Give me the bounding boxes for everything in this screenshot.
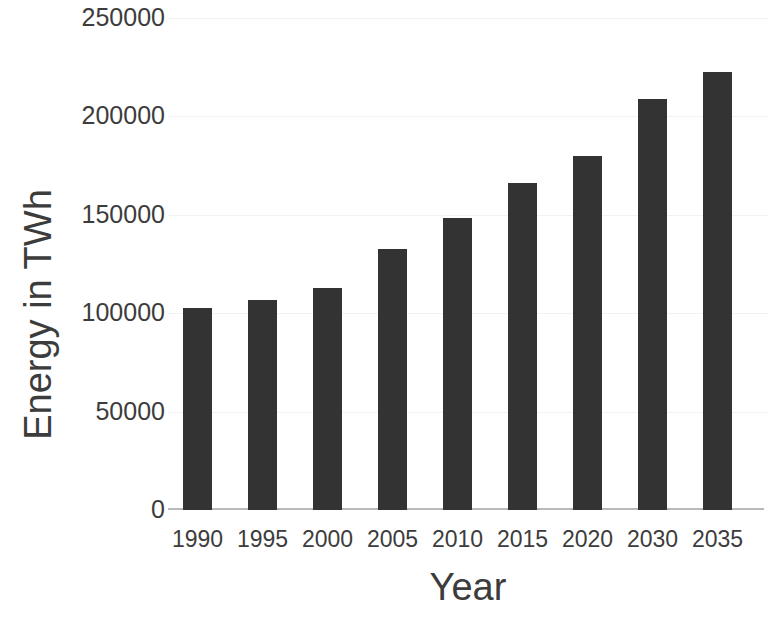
x-axis-tick-label: 2035 [686, 528, 750, 551]
y-axis-tick-label: 150000 [33, 202, 165, 227]
bar [183, 308, 212, 510]
bar [573, 156, 602, 510]
x-axis-tick-label: 2030 [621, 528, 685, 551]
y-axis-tick-label: 0 [33, 497, 165, 522]
bar [313, 288, 342, 510]
bar [248, 300, 277, 510]
bar-series [168, 8, 768, 510]
bar [378, 249, 407, 510]
y-axis-tick-label: 200000 [33, 103, 165, 128]
bar [703, 72, 732, 510]
y-axis-tick-label: 250000 [33, 5, 165, 30]
x-axis-tick-labels: 199019952000200520102015202020302035 [168, 528, 768, 562]
x-axis-tick-label: 1995 [231, 528, 295, 551]
bar [638, 99, 667, 510]
x-axis-tick-label: 2010 [426, 528, 490, 551]
x-axis-tick-label: 2000 [296, 528, 360, 551]
y-axis-tick-label: 100000 [33, 300, 165, 325]
plot-area [168, 8, 768, 510]
bar [508, 183, 537, 510]
x-axis-tick-label: 2020 [556, 528, 620, 551]
bar-chart: Energy in TWh 05000010000015000020000025… [0, 0, 782, 621]
x-axis-tick-label: 1990 [166, 528, 230, 551]
x-axis-tick-label: 2005 [361, 528, 425, 551]
y-axis-tick-labels: 050000100000150000200000250000 [0, 0, 165, 621]
x-axis-title: Year [168, 566, 768, 609]
bar [443, 218, 472, 510]
y-axis-tick-label: 50000 [33, 399, 165, 424]
x-axis-tick-label: 2015 [491, 528, 555, 551]
